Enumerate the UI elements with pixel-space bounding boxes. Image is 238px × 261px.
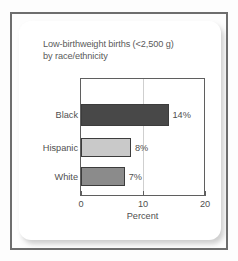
value-label-black: 14% — [173, 110, 191, 120]
category-label-black: Black — [56, 110, 78, 120]
chart-title: Low-birthweight births (<2,500 g) by rac… — [43, 39, 211, 62]
bar-white: White 7% — [81, 167, 125, 186]
x-axis-title: Percent — [80, 211, 205, 221]
xtick-mark-20 — [205, 191, 206, 196]
gridline-10 — [143, 79, 144, 195]
bar-black: Black 14% — [81, 104, 169, 126]
xtick-mark-0 — [81, 191, 82, 196]
xtick-label-20: 20 — [200, 199, 210, 209]
xtick-mark-10 — [143, 191, 144, 196]
xtick-label-10: 10 — [138, 199, 148, 209]
xtick-label-0: 0 — [78, 199, 83, 209]
bar-hispanic: Hispanic 8% — [81, 138, 131, 157]
figure-canvas: Low-birthweight births (<2,500 g) by rac… — [0, 0, 238, 261]
value-label-hispanic: 8% — [135, 143, 148, 153]
category-label-white: White — [55, 172, 79, 182]
chart-title-line-2: by race/ethnicity — [43, 51, 211, 63]
plot-area: Black 14% Hispanic 8% White 7% 0 10 20 — [80, 78, 205, 196]
category-label-hispanic: Hispanic — [43, 143, 78, 153]
value-label-white: 7% — [129, 172, 142, 182]
chart-card: Low-birthweight births (<2,500 g) by rac… — [19, 21, 221, 240]
chart-title-line-1: Low-birthweight births (<2,500 g) — [43, 39, 211, 51]
